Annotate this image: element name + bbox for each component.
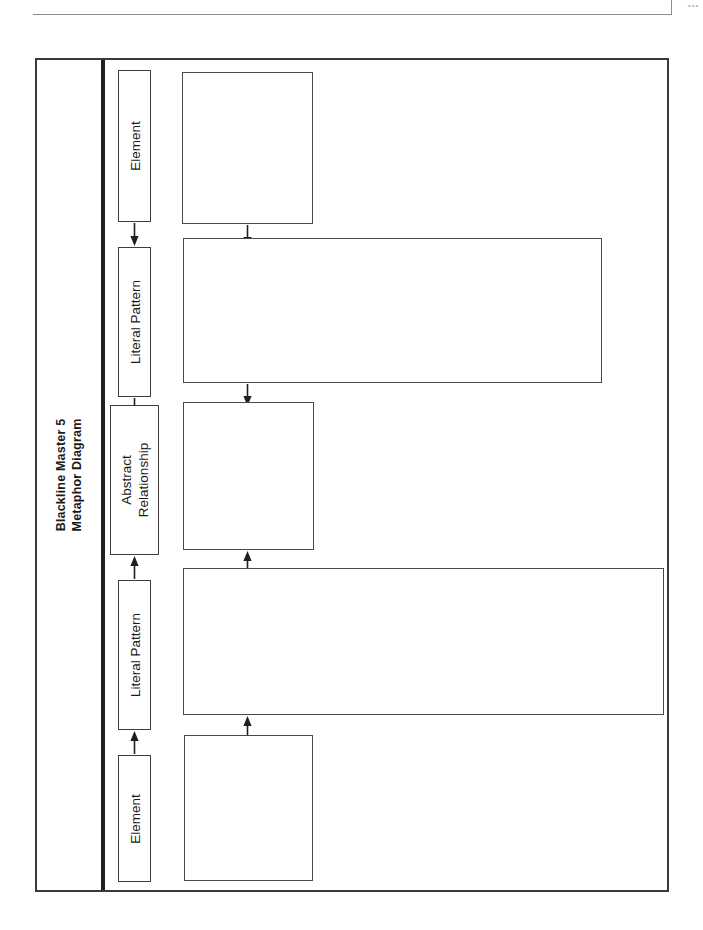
write-box-literal-pattern-bottom[interactable] bbox=[183, 568, 664, 715]
label-element-bottom: Element bbox=[126, 794, 143, 844]
label-abstract-relationship-line2: Relationship bbox=[135, 443, 152, 517]
page-title-line2: Metaphor Diagram bbox=[69, 419, 85, 532]
page-title-line1: Blackline Master 5 bbox=[53, 419, 69, 532]
label-box-element-bottom[interactable]: Element bbox=[118, 755, 151, 882]
label-literal-pattern-bottom: Literal Pattern bbox=[126, 613, 143, 697]
label-abstract-relationship-line1: Abstract bbox=[118, 443, 135, 517]
label-arrow-up-3 bbox=[130, 556, 139, 579]
label-box-literal-pattern-top[interactable]: Literal Pattern bbox=[118, 247, 151, 397]
label-box-element-top[interactable]: Element bbox=[118, 70, 151, 222]
label-abstract-relationship: Abstract Relationship bbox=[118, 443, 152, 517]
label-box-literal-pattern-bottom[interactable]: Literal Pattern bbox=[118, 580, 151, 730]
page-header-mark: ••• bbox=[688, 2, 699, 10]
page-title: Blackline Master 5 Metaphor Diagram bbox=[53, 419, 85, 532]
write-box-literal-pattern-top[interactable] bbox=[183, 238, 602, 383]
page-header-rule-tick bbox=[671, 0, 672, 15]
title-divider bbox=[101, 60, 105, 890]
label-arrow-up-4 bbox=[130, 731, 139, 754]
write-box-element-bottom[interactable] bbox=[184, 735, 313, 881]
label-element-top: Element bbox=[126, 121, 143, 171]
worksheet-frame: Blackline Master 5 Metaphor Diagram Elem… bbox=[35, 58, 669, 892]
title-column: Blackline Master 5 Metaphor Diagram bbox=[37, 60, 101, 890]
write-box-element-top[interactable] bbox=[182, 72, 313, 224]
write-box-abstract-relationship[interactable] bbox=[183, 402, 314, 550]
page-header-rule bbox=[33, 14, 672, 15]
label-literal-pattern-top: Literal Pattern bbox=[126, 280, 143, 364]
label-box-abstract-relationship[interactable]: Abstract Relationship bbox=[110, 405, 159, 555]
label-arrow-down-1 bbox=[130, 223, 139, 246]
